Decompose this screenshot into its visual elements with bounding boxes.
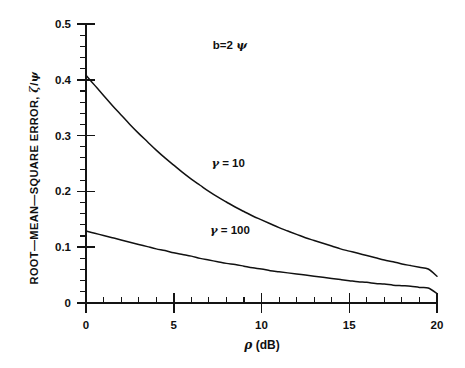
x-tick-label: 5: [171, 319, 178, 331]
x-tick-label: 0: [83, 319, 89, 331]
y-axis-tick-labels: 00.10.20.30.40.5: [55, 18, 72, 309]
y-tick-label: 0.5: [55, 18, 72, 30]
chart-annotation-2: γ = 10: [211, 156, 245, 170]
y-tick-label: 0.3: [55, 130, 71, 142]
x-tick-label: 15: [343, 319, 356, 331]
y-tick-label: 0.1: [55, 241, 72, 253]
y-tick-label: 0.2: [55, 185, 71, 197]
x-axis-tick-labels: 05101520: [83, 319, 444, 331]
data-curve-1: [86, 75, 437, 276]
chart-annotation-3: γ = 100: [210, 223, 250, 237]
data-curves: [86, 75, 437, 293]
y-axis-title: ROOT—MEAN—SQUARE ERROR, ζ/ψ: [28, 71, 41, 284]
chart-figure: 00.10.20.30.40.5 05101520 ρ (dB) ROOT—ME…: [0, 0, 465, 368]
x-axis-ticks: [86, 293, 437, 313]
chart-canvas: 00.10.20.30.40.5 05101520 ρ (dB) ROOT—ME…: [0, 0, 465, 368]
data-curve-2: [86, 231, 437, 293]
chart-annotations: b=2 ψγ = 10γ = 100: [210, 38, 250, 237]
x-tick-label: 10: [255, 319, 268, 331]
y-tick-label: 0: [65, 297, 71, 309]
x-axis-title: ρ (dB): [243, 338, 279, 352]
y-tick-label: 0.4: [55, 74, 72, 86]
chart-annotation-1: b=2 ψ: [213, 38, 248, 52]
x-tick-label: 20: [431, 319, 444, 331]
